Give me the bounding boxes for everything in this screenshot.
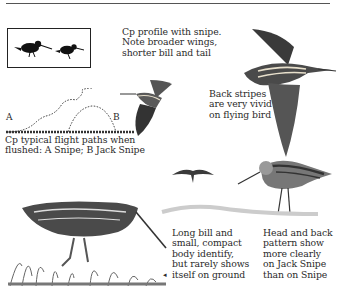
caption-back-stripes: Back stripes are very vivid on flying bi… xyxy=(209,89,272,120)
distant-flying-bird-icon xyxy=(170,165,216,187)
top-rule xyxy=(6,3,330,4)
path-label-a: A xyxy=(6,112,13,122)
caption-long-bill: Long bill and small, compact body identi… xyxy=(172,228,249,280)
silhouette-comparison-box xyxy=(7,28,91,68)
path-label-b: B xyxy=(113,112,120,122)
ground-sketch-icon xyxy=(160,196,320,218)
caption-profile: Cp profile with snipe. Note broader wing… xyxy=(122,27,221,58)
snipe-on-ground-illustration-icon xyxy=(8,196,168,288)
caption-head-back: Head and back pattern show more clearly … xyxy=(263,228,333,280)
snipe-silhouettes-icon xyxy=(8,29,90,67)
caption-flight-paths: Cp typical flight paths when flushed: A … xyxy=(5,135,145,156)
pointer-arrow-icon: ◂ xyxy=(163,270,166,280)
